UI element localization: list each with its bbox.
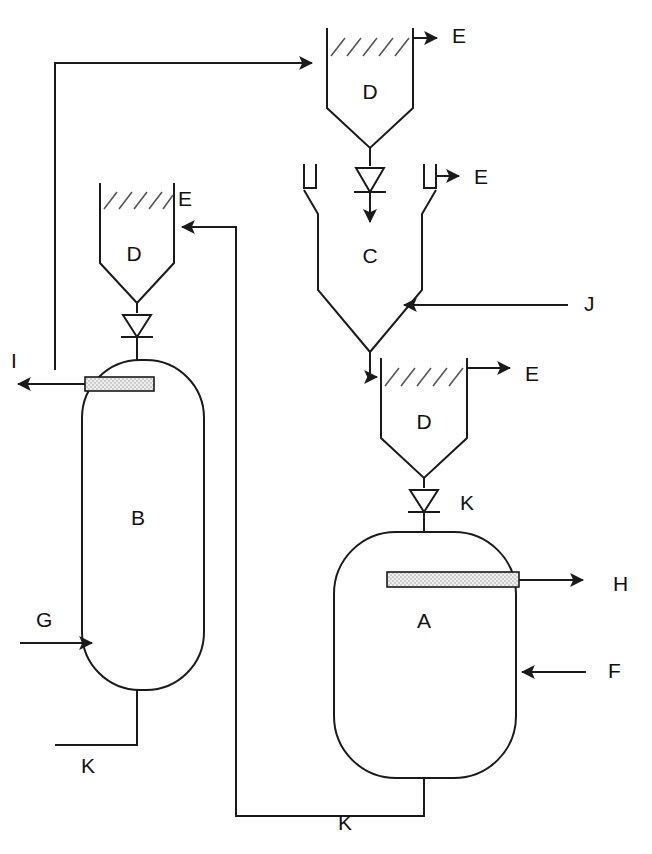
b-internal-bar bbox=[85, 377, 154, 391]
stream-label-k-recycle-b: K bbox=[81, 754, 95, 777]
unit-label-d-lower: D bbox=[416, 410, 431, 433]
stream-label-e-left: E bbox=[178, 187, 192, 210]
stream-e-top[interactable]: E bbox=[413, 24, 466, 47]
unit-d-lower[interactable]: D bbox=[381, 358, 467, 478]
stream-label-g: H bbox=[613, 572, 628, 595]
c-vent-left-hook-icon bbox=[304, 164, 316, 188]
unit-d-left[interactable]: D E bbox=[100, 183, 192, 303]
d-lower-level-hatch bbox=[385, 368, 463, 386]
stream-f-inlet[interactable]: F bbox=[522, 659, 621, 682]
valve-k-above-a[interactable]: K bbox=[408, 478, 474, 532]
d-left-level-hatch bbox=[104, 192, 173, 209]
unit-label-c: C bbox=[362, 244, 377, 267]
unit-label-d-top: D bbox=[362, 80, 377, 103]
unit-b[interactable]: B bbox=[82, 360, 204, 690]
c-vent-right-hook-icon bbox=[424, 164, 436, 188]
c-left-wall bbox=[304, 190, 370, 352]
unit-label-d-left: D bbox=[126, 242, 141, 265]
stream-label-e-lower: E bbox=[525, 362, 539, 385]
a-internal-bar bbox=[387, 572, 519, 587]
stream-k-recycle-b[interactable]: K bbox=[55, 690, 137, 777]
process-flow-diagram: D E C E J bbox=[0, 0, 652, 854]
stream-label-e-mid: E bbox=[474, 165, 488, 188]
c-right-wall bbox=[370, 190, 436, 352]
stream-label-f: F bbox=[608, 659, 621, 682]
stream-e-mid[interactable]: E bbox=[436, 165, 488, 188]
d-top-level-hatch bbox=[331, 38, 409, 56]
stream-label-h: G bbox=[36, 608, 52, 631]
stream-i-outlet[interactable]: I bbox=[11, 349, 85, 384]
stream-e-lower[interactable]: E bbox=[467, 362, 539, 385]
flowsheet-canvas: D E C E J bbox=[0, 0, 652, 854]
valve-d-left-outlet[interactable] bbox=[121, 303, 153, 360]
stream-c-to-dlower[interactable] bbox=[370, 352, 377, 377]
unit-label-b: B bbox=[131, 506, 145, 529]
stream-label-k-valve: K bbox=[460, 491, 474, 514]
unit-label-a: A bbox=[417, 609, 431, 632]
stream-label-e-top: E bbox=[452, 24, 466, 47]
stream-recycle-b-to-dtop[interactable] bbox=[55, 63, 312, 370]
unit-d-top[interactable]: D bbox=[327, 28, 413, 148]
stream-g-outlet[interactable]: H bbox=[519, 572, 628, 595]
stream-j-inlet[interactable]: J bbox=[404, 292, 595, 315]
a-shell bbox=[334, 532, 516, 778]
stream-label-j: J bbox=[584, 292, 595, 315]
valve-d-top-outlet[interactable] bbox=[354, 148, 386, 222]
stream-label-k-recycle-a: K bbox=[338, 811, 352, 834]
unit-a[interactable]: A bbox=[334, 532, 519, 778]
stream-label-i: I bbox=[11, 349, 17, 372]
